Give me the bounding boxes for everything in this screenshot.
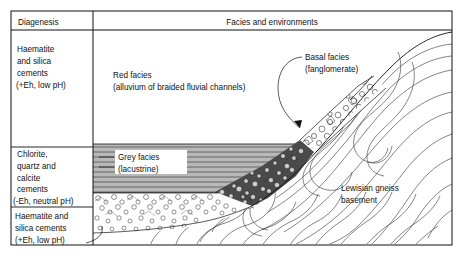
gneiss-line-0: Lewisian gneiss <box>341 184 399 193</box>
diagenesis-zone-middle: Chlorite, quartz and calcite cements (-E… <box>13 150 74 206</box>
zone-upper-line-1: and silica <box>17 57 52 66</box>
red-facies-line-1: (alluvium of braided fluvial channels) <box>113 83 246 92</box>
zone-middle-line-0: Chlorite, <box>17 150 48 159</box>
zone-middle-line-1: quartz and <box>17 162 56 171</box>
grey-facies-line-0: Grey facies <box>118 153 159 162</box>
zone-upper-line-0: Haematite <box>17 45 55 54</box>
zone-lower-line-2: (+Eh, low pH) <box>15 236 65 245</box>
basal-facies-leader <box>278 57 302 128</box>
zone-middle-line-3: cements <box>17 185 48 194</box>
label-red-facies: Red facies (alluvium of braided fluvial … <box>113 71 246 92</box>
zone-upper-line-2: cements <box>17 69 48 78</box>
figure-canvas: Diagenesis Facies and environments Haema… <box>0 0 465 260</box>
cross-section-svg: Diagenesis Facies and environments Haema… <box>0 0 465 260</box>
zone-lower-line-0: Haematite and <box>15 212 69 221</box>
basal-facies-line-1: (fanglomerate) <box>305 65 359 74</box>
zone-middle-line-4: (-Eh, neutral pH) <box>13 197 74 206</box>
zone-lower-line-1: silica cements <box>15 224 66 233</box>
grey-facies-line-1: (lacustrine) <box>118 165 159 174</box>
header-facies: Facies and environments <box>226 18 317 27</box>
zone-middle-line-2: calcite <box>17 174 41 183</box>
zone-upper-line-3: (+Eh, low pH) <box>16 81 66 90</box>
diagenesis-zone-lower: Haematite and silica cements (+Eh, low p… <box>15 212 69 245</box>
diagenesis-zone-upper: Haematite and silica cements (+Eh, low p… <box>16 45 66 90</box>
red-facies-line-0: Red facies <box>113 71 152 80</box>
basal-facies-line-0: Basal facies <box>305 53 349 62</box>
gneiss-line-1: basement <box>341 196 378 205</box>
header-diagenesis: Diagenesis <box>18 18 59 27</box>
